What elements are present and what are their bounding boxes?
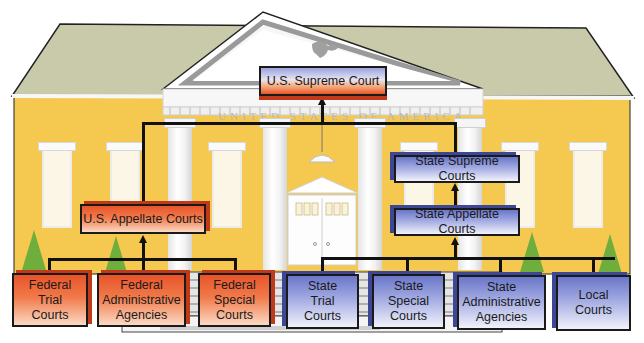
arrow-up-icon [451, 183, 459, 191]
top-bus-line [142, 122, 456, 125]
column [263, 126, 287, 270]
node-state-special-courts: State Special Courts [372, 274, 445, 329]
connector-line [48, 258, 51, 274]
connector-line [406, 257, 409, 273]
arrow-up-icon [318, 97, 326, 105]
column [458, 126, 482, 270]
tree-icon [520, 232, 544, 272]
arrow-up-icon [139, 235, 147, 243]
arrow-up-icon [451, 237, 459, 245]
connector-line [454, 190, 457, 207]
connector-line [142, 242, 145, 258]
node-state-administrative-agencies: State Administrative Agencies [457, 275, 546, 330]
node-label: Federal Special Courts [213, 278, 255, 323]
window [212, 148, 242, 228]
node-state-trial-courts: State Trial Courts [286, 274, 359, 329]
connector-line [592, 257, 595, 275]
connector-line [142, 122, 145, 204]
tree-icon [598, 234, 622, 274]
column [358, 126, 382, 270]
frieze-inscription: UNITED STATES OF AMERICA [218, 110, 466, 122]
node-federal-administrative-agencies: Federal Administrative Agencies [97, 273, 186, 327]
tree-icon [104, 236, 128, 276]
node-label: U.S. Supreme Court [267, 74, 380, 89]
tree-icon [22, 230, 46, 270]
state-bus-line [321, 257, 615, 260]
node-label: Local Courts [575, 288, 612, 318]
column-capital [454, 118, 486, 128]
connector-line [321, 105, 324, 123]
node-federal-trial-courts: Federal Trial Courts [12, 273, 88, 327]
window [573, 148, 603, 228]
node-label: Federal Administrative Agencies [102, 278, 181, 323]
node-label: U.S. Appellate Courts [83, 212, 203, 227]
connector-line [321, 257, 324, 273]
node-us-supreme-court: U.S. Supreme Court [259, 66, 387, 96]
node-state-supreme-courts: State Supreme Courts [394, 155, 520, 183]
connector-line [454, 122, 457, 154]
node-label: Federal Trial Courts [29, 278, 71, 323]
node-label: State Supreme Courts [396, 154, 518, 184]
node-label: State Administrative Agencies [462, 280, 541, 325]
node-label: State Appellate Courts [396, 207, 518, 237]
connector-line [142, 258, 145, 274]
node-state-appellate-courts: State Appellate Courts [394, 208, 520, 236]
node-label: State Special Courts [388, 279, 429, 324]
connector-line [234, 258, 237, 274]
node-label: State Trial Courts [304, 279, 341, 324]
window [42, 148, 72, 228]
column [168, 126, 192, 270]
node-local-courts: Local Courts [556, 275, 631, 331]
node-us-appellate-courts: U.S. Appellate Courts [80, 204, 206, 234]
connector-line [499, 257, 502, 275]
node-federal-special-courts: Federal Special Courts [198, 273, 271, 327]
